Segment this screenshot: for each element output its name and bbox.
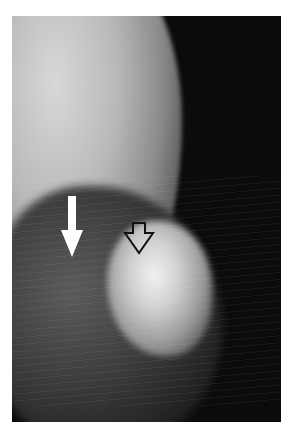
open-arrow-icon	[123, 221, 155, 255]
solid-arrow-icon	[60, 196, 84, 258]
mammogram-image	[12, 16, 281, 422]
tissue-strands	[12, 176, 281, 406]
